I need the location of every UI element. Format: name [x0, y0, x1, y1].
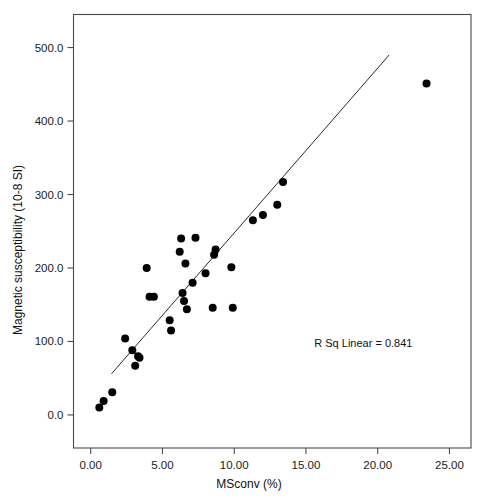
data-point: [279, 178, 287, 186]
data-point: [227, 263, 235, 271]
data-point: [180, 297, 188, 305]
data-point: [183, 305, 191, 313]
r-squared-annotation: R Sq Linear = 0.841: [314, 337, 412, 349]
data-point: [212, 246, 220, 254]
data-point: [191, 234, 199, 242]
data-point: [229, 304, 237, 312]
y-tick-label: 300.0: [35, 189, 64, 201]
data-point: [108, 388, 116, 396]
data-point: [209, 304, 217, 312]
y-tick-label: 200.0: [35, 262, 64, 274]
data-point: [249, 216, 257, 224]
x-tick-label: 5.00: [151, 459, 173, 471]
x-tick-label: 15.00: [292, 459, 321, 471]
y-tick-label: 500.0: [35, 42, 64, 54]
data-point: [150, 293, 158, 301]
data-point: [136, 354, 144, 362]
data-point: [100, 397, 108, 405]
chart-annotations: R Sq Linear = 0.841: [314, 337, 412, 349]
data-point: [166, 316, 174, 324]
y-axis-title: Magnetic susceptibility (10-8 SI): [11, 165, 25, 335]
data-point: [128, 346, 136, 354]
y-tick-label: 0.0: [48, 409, 64, 421]
data-point: [179, 289, 187, 297]
chart-background: [0, 0, 499, 501]
data-point: [273, 201, 281, 209]
x-tick-label: 20.00: [363, 459, 392, 471]
data-point: [202, 269, 210, 277]
data-point: [189, 279, 197, 287]
x-tick-label: 10.00: [220, 459, 249, 471]
data-point: [95, 404, 103, 412]
x-tick-label: 0.00: [80, 459, 102, 471]
data-point: [177, 235, 185, 243]
data-point: [259, 211, 267, 219]
y-tick-label: 100.0: [35, 335, 64, 347]
data-point: [176, 248, 184, 256]
x-tick-label: 25.00: [435, 459, 464, 471]
scatter-chart: 0.005.0010.0015.0020.0025.00 0.0100.0200…: [0, 0, 499, 501]
plot-area: 0.005.0010.0015.0020.0025.00 0.0100.0200…: [0, 0, 499, 501]
data-point: [131, 362, 139, 370]
y-tick-label: 400.0: [35, 115, 64, 127]
data-point: [423, 80, 431, 88]
x-axis-title: MSconv (%): [216, 477, 281, 491]
data-point: [143, 264, 151, 272]
data-point: [181, 260, 189, 268]
data-point: [167, 326, 175, 334]
data-point: [121, 335, 129, 343]
